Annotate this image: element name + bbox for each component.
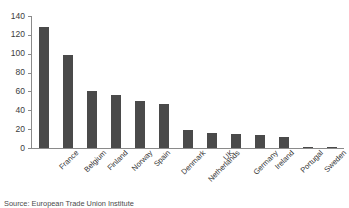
y-axis: 020406080100120140 — [0, 0, 28, 155]
bar-slot — [320, 16, 344, 148]
y-axis-tick-label: 140 — [11, 12, 25, 21]
bar — [87, 91, 97, 148]
bar-slot — [32, 16, 56, 148]
bar — [135, 101, 145, 148]
x-axis-tick-label: Norway — [130, 149, 154, 173]
bar — [255, 135, 265, 148]
x-axis-tick-label: Denmark — [180, 149, 207, 176]
bar-slot — [296, 16, 320, 148]
source-note: Source: European Trade Union Institute — [4, 200, 134, 208]
bar — [39, 27, 49, 148]
x-axis-tick-label: France — [58, 149, 80, 171]
plot-area — [32, 16, 344, 148]
bar-slot — [104, 16, 128, 148]
bar-chart: 020406080100120140 FranceBelgiumFinlandN… — [0, 0, 349, 208]
y-axis-tick-label: 120 — [11, 30, 25, 39]
x-axis-category-labels: FranceBelgiumFinlandNorwaySpainDenmarkNe… — [32, 149, 344, 201]
x-axis-tick-label: Spain — [152, 149, 171, 168]
y-axis-tick-label: 100 — [11, 49, 25, 58]
bar-slot — [152, 16, 176, 148]
bar — [159, 104, 169, 148]
bar-slot — [272, 16, 296, 148]
bar-slot — [200, 16, 224, 148]
bar — [111, 95, 121, 148]
bar — [327, 147, 337, 148]
y-axis-tick-label: 20 — [16, 125, 25, 134]
x-axis-tick-label: Sweden — [323, 149, 348, 174]
bar — [183, 130, 193, 148]
bar — [207, 133, 217, 148]
bar — [279, 137, 289, 148]
bar — [303, 147, 313, 148]
x-axis-tick-label: Portugal — [299, 149, 325, 175]
y-axis-tick-label: 0 — [20, 144, 25, 153]
y-axis-tick-label: 40 — [16, 106, 25, 115]
bar-slot — [80, 16, 104, 148]
bar-slot — [128, 16, 152, 148]
y-axis-tick-label: 60 — [16, 87, 25, 96]
bar-slot — [224, 16, 248, 148]
bar — [231, 134, 241, 148]
x-axis-tick-label: Finland — [106, 149, 129, 172]
y-axis-tick-label: 80 — [16, 68, 25, 77]
bar-slot — [248, 16, 272, 148]
bar — [63, 55, 73, 148]
bar-slot — [56, 16, 80, 148]
x-axis-tick-label: Belgium — [83, 149, 108, 174]
bar-slot — [176, 16, 200, 148]
